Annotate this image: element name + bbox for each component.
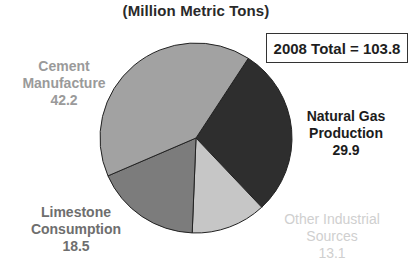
label-other-line1: Other Industrial [262,211,402,228]
label-other-industrial-sources: Other Industrial Sources 13.1 [262,211,402,262]
label-cement-value: 42.2 [8,92,120,109]
label-cement-line1: Cement [8,58,120,75]
label-natural-gas-line2: Production [290,125,402,142]
label-cement-line2: Manufacture [8,75,120,92]
label-other-value: 13.1 [262,245,402,262]
label-limestone-line2: Consumption [22,221,130,238]
label-cement-manufacture: Cement Manufacture 42.2 [8,58,120,109]
label-other-line2: Sources [262,228,402,245]
label-limestone-value: 18.5 [22,238,130,255]
label-natural-gas-line1: Natural Gas [290,108,402,125]
label-natural-gas-production: Natural Gas Production 29.9 [290,108,402,159]
label-limestone-consumption: Limestone Consumption 18.5 [22,204,130,255]
total-annotation: 2008 Total = 103.8 [266,33,408,63]
label-natural-gas-value: 29.9 [290,142,402,159]
label-limestone-line1: Limestone [22,204,130,221]
